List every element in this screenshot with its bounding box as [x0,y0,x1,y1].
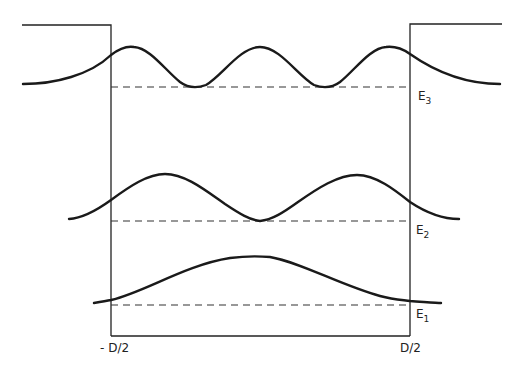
level-e2: E2 [69,174,459,240]
wavefunction-e2 [69,174,459,221]
label-e3: E3 [418,89,431,106]
level-e1: E1 [94,256,441,324]
label-e2: E2 [416,223,429,240]
level-e3: E3 [23,47,500,106]
left-wall-label: - D/2 [100,341,129,355]
left-barrier [22,25,111,336]
right-barrier [410,24,502,336]
potential-well [22,24,502,336]
wavefunction-e3 [23,47,500,87]
quantum-well-diagram: E3 E2 E1 - D/2 D/2 [0,0,521,377]
label-e1: E1 [416,307,429,324]
right-wall-label: D/2 [400,341,421,355]
wavefunction-e1 [94,256,441,303]
